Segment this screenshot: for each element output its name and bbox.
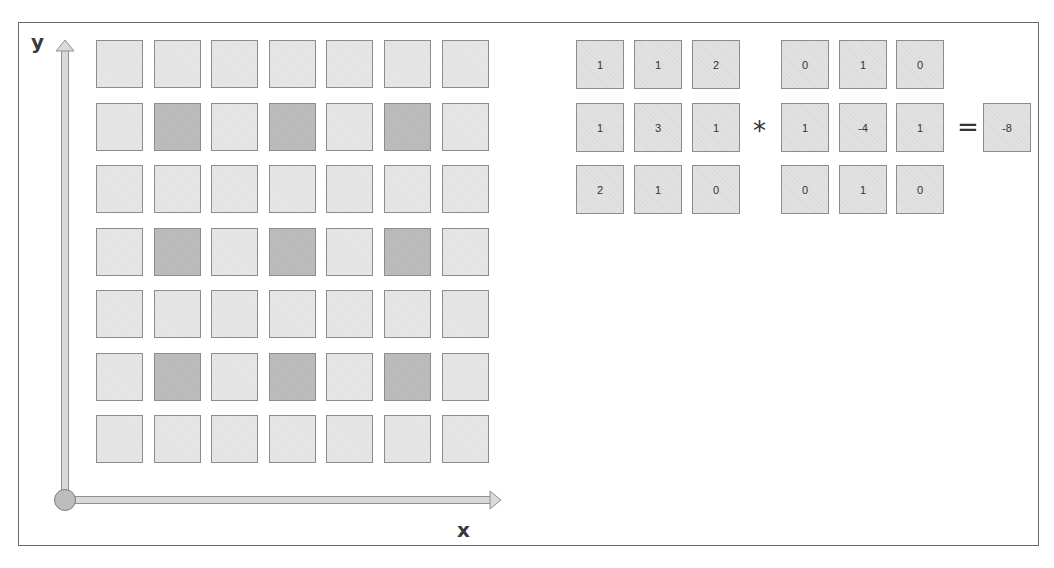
grid-cell (154, 415, 201, 463)
kernel-cell: 1 (839, 165, 887, 214)
grid-cell (96, 103, 143, 151)
grid-cell-dark (154, 103, 201, 151)
kernel-cell: 0 (781, 40, 829, 89)
grid-cell (154, 40, 201, 88)
grid-cell (442, 290, 489, 338)
grid-cell (384, 40, 431, 88)
grid-cell (326, 165, 373, 213)
equals-sign: = (957, 112, 979, 142)
y-arrowhead-icon (55, 39, 75, 53)
kernel-cell: 1 (781, 103, 829, 152)
kernel-cell: 0 (896, 40, 944, 89)
grid-cell (326, 40, 373, 88)
patch-cell: 1 (634, 40, 682, 89)
grid-cell (326, 228, 373, 276)
y-axis-label: y (31, 30, 44, 54)
grid-cell (442, 228, 489, 276)
grid-cell-dark (269, 103, 316, 151)
x-axis-arrow (65, 496, 491, 504)
grid-cell (384, 165, 431, 213)
grid-cell (269, 165, 316, 213)
grid-cell (96, 290, 143, 338)
grid-cell-dark (269, 228, 316, 276)
x-axis-label: x (457, 518, 470, 542)
grid-cell (96, 228, 143, 276)
grid-cell (269, 40, 316, 88)
patch-cell: 2 (576, 165, 624, 214)
grid-cell (442, 415, 489, 463)
grid-cell (211, 228, 258, 276)
kernel-cell: 0 (781, 165, 829, 214)
grid-cell (211, 40, 258, 88)
convolution-operator: * (753, 116, 766, 146)
grid-cell (442, 353, 489, 401)
grid-cell (326, 290, 373, 338)
grid-cell (96, 40, 143, 88)
grid-cell (442, 165, 489, 213)
origin-point (54, 489, 76, 511)
kernel-cell: 1 (839, 40, 887, 89)
grid-cell (269, 415, 316, 463)
result-cell: -8 (983, 103, 1031, 152)
kernel-cell: 0 (896, 165, 944, 214)
grid-cell-dark (384, 103, 431, 151)
grid-cell-dark (269, 353, 316, 401)
grid-cell (154, 290, 201, 338)
diagram-frame (18, 22, 1039, 546)
grid-cell (211, 353, 258, 401)
grid-cell (384, 415, 431, 463)
grid-cell (326, 415, 373, 463)
x-arrowhead-icon (488, 490, 502, 510)
grid-cell (96, 415, 143, 463)
grid-cell-dark (384, 353, 431, 401)
grid-cell-dark (154, 353, 201, 401)
grid-cell (442, 103, 489, 151)
grid-cell (211, 290, 258, 338)
grid-cell-dark (384, 228, 431, 276)
grid-cell (269, 290, 316, 338)
kernel-cell: -4 (839, 103, 887, 152)
grid-cell (326, 353, 373, 401)
grid-cell (154, 165, 201, 213)
grid-cell-dark (154, 228, 201, 276)
patch-cell: 1 (576, 40, 624, 89)
y-axis-arrow (61, 48, 69, 500)
patch-cell: 1 (634, 165, 682, 214)
kernel-cell: 1 (896, 103, 944, 152)
patch-cell: 2 (692, 40, 740, 89)
grid-cell (384, 290, 431, 338)
grid-cell (326, 103, 373, 151)
patch-cell: 1 (692, 103, 740, 152)
grid-cell (442, 40, 489, 88)
grid-cell (211, 103, 258, 151)
grid-cell (96, 353, 143, 401)
grid-cell (211, 165, 258, 213)
grid-cell (211, 415, 258, 463)
grid-cell (96, 165, 143, 213)
patch-cell: 0 (692, 165, 740, 214)
patch-cell: 1 (576, 103, 624, 152)
patch-cell: 3 (634, 103, 682, 152)
